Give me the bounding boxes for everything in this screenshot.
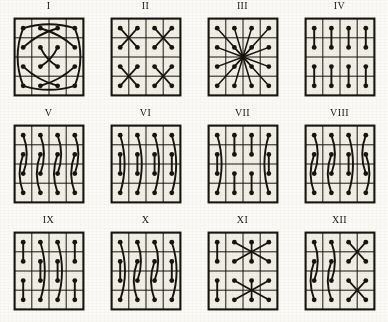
panel-figure (9, 227, 89, 315)
grid-dot (21, 152, 26, 157)
grid-dot (232, 64, 237, 69)
grid-dot (169, 278, 174, 283)
grid-dot (118, 152, 123, 157)
grid-dot (329, 152, 334, 157)
grid-dot (21, 190, 26, 195)
grid-dot (72, 278, 77, 283)
grid-dot (21, 171, 26, 176)
grid-dot (329, 45, 334, 50)
grid-dot (38, 26, 43, 31)
panel-label: XI (194, 214, 291, 226)
grid-dot (55, 278, 60, 283)
grid-dot (55, 83, 60, 88)
grid-dot (329, 64, 334, 69)
grid-dot (118, 240, 123, 245)
grid-dot (72, 133, 77, 138)
grid-dot (55, 190, 60, 195)
grid-dot (266, 133, 271, 138)
grid-dot (329, 297, 334, 302)
grid-dot (55, 171, 60, 176)
grid-dot (266, 190, 271, 195)
grid-dot (169, 83, 174, 88)
dot-grid-diagram (9, 120, 89, 208)
grid-dot (72, 64, 77, 69)
grid-dot (232, 171, 237, 176)
grid-dot (312, 133, 317, 138)
grid-dot (363, 190, 368, 195)
grid-dot (21, 240, 26, 245)
grid-dot (266, 26, 271, 31)
grid-dot (38, 45, 43, 50)
grid-dot (232, 26, 237, 31)
grid-dot (266, 240, 271, 245)
grid-dot (266, 45, 271, 50)
grid-dot (249, 297, 254, 302)
grid-dot (266, 297, 271, 302)
grid-dot (363, 259, 368, 264)
grid-dot (363, 133, 368, 138)
panel-label: VI (97, 107, 194, 119)
grid-dot (152, 278, 157, 283)
grid-dot (169, 152, 174, 157)
grid-dot (118, 83, 123, 88)
grid-dot (118, 278, 123, 283)
grid-dot (232, 190, 237, 195)
grid-dot (312, 297, 317, 302)
grid-dot (363, 64, 368, 69)
dot-grid-diagram (106, 120, 186, 208)
grid-dot (249, 26, 254, 31)
grid-dot (38, 190, 43, 195)
grid-dot (21, 133, 26, 138)
grid-dot (363, 240, 368, 245)
grid-dot (329, 278, 334, 283)
grid-dot (169, 190, 174, 195)
grid-dot (135, 190, 140, 195)
dot-grid-diagram (300, 13, 380, 101)
panel-figure (106, 13, 186, 101)
panel-label: I (0, 0, 97, 12)
grid-dot (135, 259, 140, 264)
grid-dot (38, 240, 43, 245)
panel-figure (106, 120, 186, 208)
grid-dot (266, 152, 271, 157)
grid-dot (312, 83, 317, 88)
panel-figure (106, 227, 186, 315)
grid-dot (232, 278, 237, 283)
grid-dot (152, 240, 157, 245)
panel-label: III (194, 0, 291, 12)
grid-dot (72, 83, 77, 88)
grid-dot (346, 26, 351, 31)
panel-label: IV (291, 0, 388, 12)
grid-dot (312, 278, 317, 283)
panel-label: IX (0, 214, 97, 226)
grid-dot (118, 133, 123, 138)
grid-dot (72, 152, 77, 157)
grid-dot (215, 190, 220, 195)
grid-dot (152, 297, 157, 302)
grid-dot (363, 83, 368, 88)
grid-dot (215, 171, 220, 176)
panel-viii: VIII (291, 107, 388, 214)
panel-figure (300, 120, 380, 208)
figure-plate: IIIIIIIVVVIVIIVIIIIXXXIXII (0, 0, 388, 322)
grid-dot (169, 259, 174, 264)
panel-v: V (0, 107, 97, 214)
grid-dot (38, 83, 43, 88)
grid-dot (346, 133, 351, 138)
grid-dot (346, 45, 351, 50)
grid-dot (232, 240, 237, 245)
panel-figure (9, 13, 89, 101)
grid-dot (169, 171, 174, 176)
panel-figure (300, 13, 380, 101)
grid-dot (21, 278, 26, 283)
dot-grid-diagram (300, 227, 380, 315)
grid-dot (346, 152, 351, 157)
dot-grid-diagram (106, 13, 186, 101)
grid-dot (346, 171, 351, 176)
panel-label: X (97, 214, 194, 226)
grid-dot (152, 171, 157, 176)
grid-dot (215, 26, 220, 31)
grid-dot (249, 240, 254, 245)
grid-dot (72, 26, 77, 31)
panel-ix: IX (0, 214, 97, 321)
